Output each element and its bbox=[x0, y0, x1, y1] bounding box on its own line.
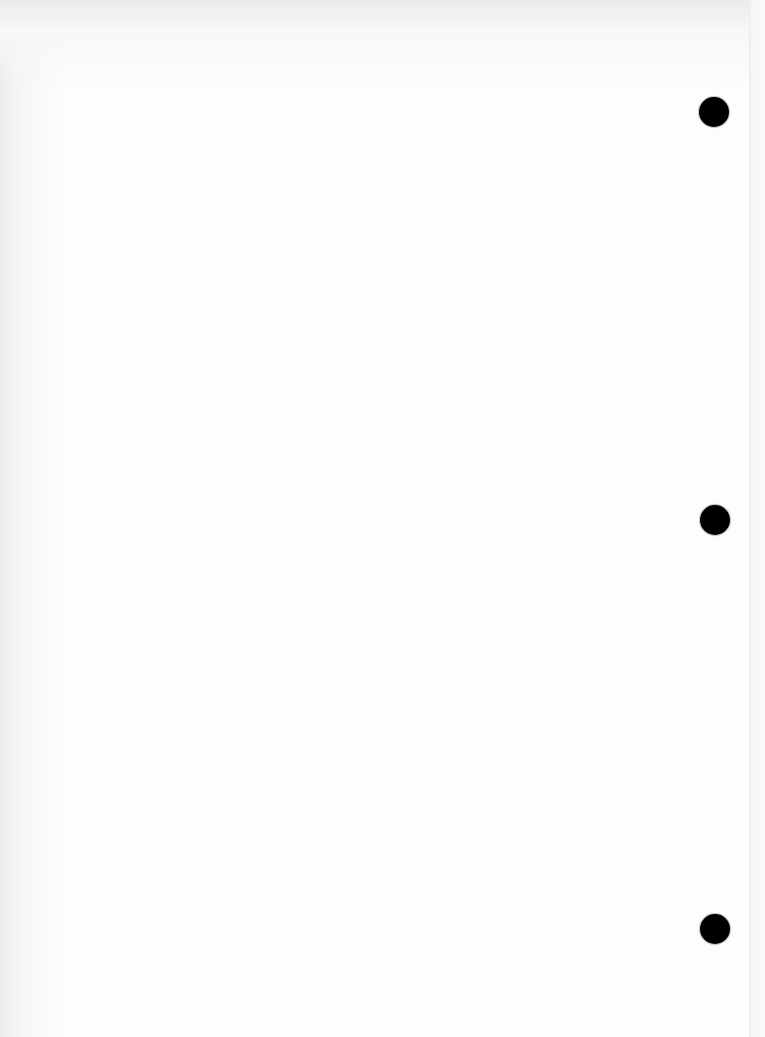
scanned-page bbox=[0, 0, 765, 1037]
page-right-edge bbox=[749, 0, 765, 1037]
punch-hole-middle bbox=[700, 505, 730, 535]
punch-hole-top bbox=[699, 97, 729, 127]
punch-hole-bottom bbox=[700, 914, 730, 944]
